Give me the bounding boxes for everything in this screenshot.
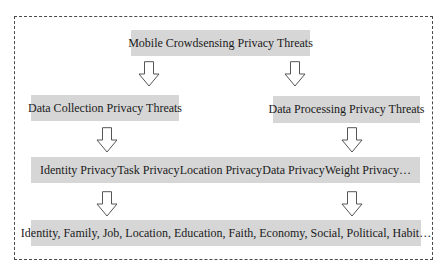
down-arrow-icon: [138, 61, 160, 87]
privacy-type-data: Data Privacy: [262, 163, 324, 178]
down-arrow-icon: [96, 191, 118, 217]
data-collection-node: Data Collection Privacy Threats: [31, 95, 179, 121]
privacy-type-location: Location Privacy: [180, 163, 262, 178]
privacy-types-band: Identity Privacy Task Privacy Location P…: [31, 157, 420, 183]
attributes-label: Identity, Family, Job, Location, Educati…: [21, 226, 431, 241]
down-arrow-icon: [96, 127, 118, 153]
root-node: Mobile Crowdsensing Privacy Threats: [131, 30, 310, 56]
privacy-type-task: Task Privacy: [117, 163, 179, 178]
privacy-type-weight: Weight Privacy…: [325, 163, 411, 178]
data-collection-label: Data Collection Privacy Threats: [28, 101, 182, 116]
down-arrow-icon: [284, 61, 306, 87]
privacy-type-identity: Identity Privacy: [40, 163, 117, 178]
data-processing-label: Data Processing Privacy Threats: [268, 102, 424, 117]
attributes-band: Identity, Family, Job, Location, Educati…: [31, 220, 421, 246]
down-arrow-icon: [341, 127, 363, 153]
root-node-label: Mobile Crowdsensing Privacy Threats: [128, 36, 313, 51]
down-arrow-icon: [341, 191, 363, 217]
data-processing-node: Data Processing Privacy Threats: [273, 96, 420, 123]
